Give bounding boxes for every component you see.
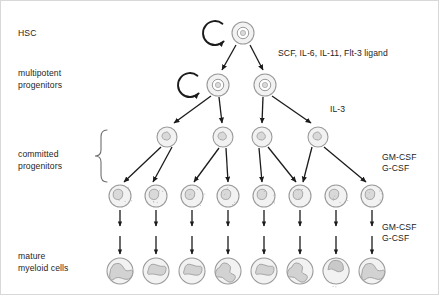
arrow-committed-to-precursors xyxy=(324,147,366,182)
cell-mature-myeloid-4 xyxy=(215,258,241,284)
arrow-multipotent-to-committed xyxy=(272,96,311,123)
self-renewal-arrow xyxy=(203,21,224,45)
arrow-committed-to-precursors xyxy=(226,148,228,182)
cell-shapes xyxy=(107,22,385,287)
cytokine-label-csf-upper-2: G-CSF xyxy=(382,163,409,175)
stage-label-multipotent-line2: progenitors xyxy=(18,80,62,91)
cell-multipotent-progenitor-2 xyxy=(254,74,276,96)
arrow-committed-to-precursors xyxy=(259,148,262,182)
stage-label-mature-line2: myeloid cells xyxy=(18,263,69,274)
cell-precursor-5 xyxy=(253,185,275,207)
arrow-multipotent-to-committed xyxy=(262,97,263,123)
cell-precursor-6 xyxy=(289,185,311,207)
arrow-multipotent-to-committed xyxy=(174,96,211,123)
cytokine-label-csf-lower-1: GM-CSF xyxy=(382,222,417,234)
hematopoiesis-diagram-graphic xyxy=(0,0,440,296)
arrow-hsc-to-multipotent xyxy=(222,45,236,70)
self-renewal-arrow xyxy=(178,73,199,97)
cell-mature-myeloid-5 xyxy=(251,258,277,284)
cell-hsc xyxy=(232,22,254,44)
arrow-hsc-to-multipotent xyxy=(250,45,263,70)
diagram-canvas: HSCmultipotentprogenitorscommittedprogen… xyxy=(0,0,440,296)
cytokine-label-csf-lower-2: G-CSF xyxy=(382,233,409,245)
arrow-committed-to-precursors xyxy=(303,147,312,182)
arrow-multipotent-to-committed xyxy=(219,97,222,123)
stage-label-committed-line1: committed xyxy=(18,149,59,160)
cell-precursor-8 xyxy=(361,185,383,207)
stage-label-committed-line2: progenitors xyxy=(18,161,62,172)
cell-precursor-2 xyxy=(145,185,167,207)
cell-committed-progenitor-2 xyxy=(213,127,233,147)
cell-mature-myeloid-7 xyxy=(323,258,349,287)
cell-mature-myeloid-3 xyxy=(179,258,205,284)
cytokine-label-il3: IL-3 xyxy=(330,104,345,116)
cell-committed-progenitor-4 xyxy=(308,127,328,147)
cell-precursor-7 xyxy=(325,185,348,207)
cell-precursor-3 xyxy=(181,185,205,207)
cell-precursor-1 xyxy=(109,185,132,207)
stage-label-multipotent-line1: multipotent xyxy=(18,68,61,79)
cell-multipotent-progenitor-1 xyxy=(207,74,229,96)
arrow-committed-to-precursors xyxy=(194,148,219,182)
cell-committed-progenitor-3 xyxy=(252,127,272,147)
cell-mature-myeloid-8 xyxy=(359,258,385,284)
cell-mature-myeloid-6 xyxy=(287,258,313,284)
cell-precursor-4 xyxy=(217,185,239,207)
cell-mature-myeloid-1 xyxy=(107,258,133,284)
stage-label-hsc: HSC xyxy=(18,28,36,39)
lineage-arrows xyxy=(120,45,372,254)
cytokine-label-scf-group: SCF, IL-6, IL-11, Flt-3 ligand xyxy=(278,48,388,60)
cytokine-label-csf-upper-1: GM-CSF xyxy=(382,152,417,164)
cell-committed-progenitor-1 xyxy=(157,127,177,147)
arrow-committed-to-precursors xyxy=(268,147,296,182)
stage-label-mature-line1: mature xyxy=(18,251,45,262)
cell-mature-myeloid-2 xyxy=(143,258,169,284)
committed-progenitors-brace xyxy=(95,130,107,182)
